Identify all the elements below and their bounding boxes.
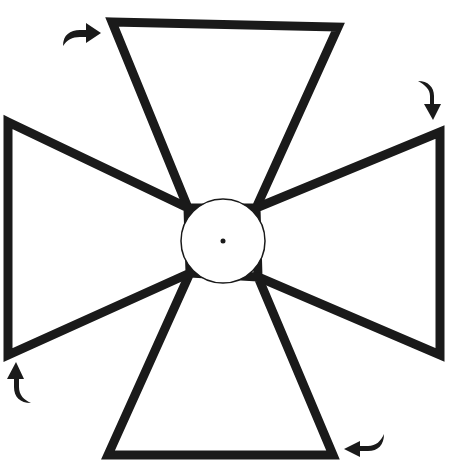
arrow-down-icon <box>418 81 441 120</box>
arrow-up-icon <box>7 362 31 403</box>
arm-right <box>256 132 440 355</box>
arm-bottom <box>108 273 333 455</box>
arrow-right-icon <box>63 23 101 46</box>
center-dot <box>221 239 226 244</box>
arrow-left-icon <box>344 434 384 457</box>
arm-top <box>112 22 338 208</box>
maltese-cross-diagram <box>0 0 453 460</box>
